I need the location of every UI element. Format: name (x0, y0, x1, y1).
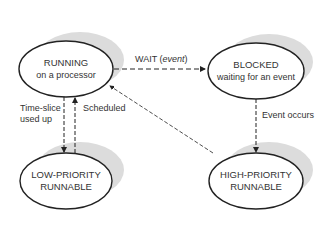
wait-label: WAIT (event) (135, 54, 188, 65)
low-title: LOW-PRIORITY (18, 169, 114, 181)
blocked-subtitle: waiting for an event (206, 71, 306, 83)
blocked-title: BLOCKED (206, 59, 306, 71)
high-priority-label: HIGH-PRIORITY RUNNABLE (207, 169, 305, 193)
low-subtitle: RUNNABLE (18, 181, 114, 193)
running-label: RUNNING on a processor (19, 57, 113, 81)
low-priority-label: LOW-PRIORITY RUNNABLE (18, 169, 114, 193)
scheduled-label: Scheduled (83, 103, 126, 114)
edge-high-to-running (110, 86, 213, 153)
blocked-label: BLOCKED waiting for an event (206, 59, 306, 83)
time-slice-label: Time-slice used up (20, 103, 61, 125)
running-title: RUNNING (19, 57, 113, 69)
event-occurs-label: Event occurs (262, 110, 314, 121)
high-title: HIGH-PRIORITY (207, 169, 305, 181)
running-subtitle: on a processor (19, 69, 113, 81)
high-subtitle: RUNNABLE (207, 181, 305, 193)
